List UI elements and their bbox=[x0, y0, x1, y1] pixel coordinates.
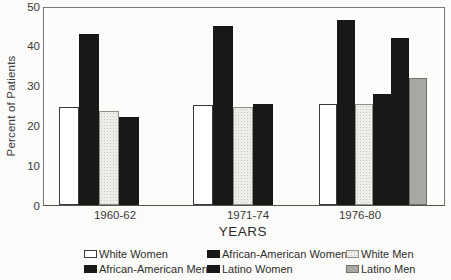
legend-label-african-american-women: African-American Women bbox=[222, 248, 347, 260]
bar-white-men-1960-62 bbox=[99, 111, 119, 205]
y-tick-label-50: 50 bbox=[13, 1, 40, 14]
x-category-label-1960-62: 1960-62 bbox=[94, 209, 136, 221]
legend-label-african-american-men: African-American Men bbox=[99, 263, 208, 275]
y-axis-title: Percent of Patients bbox=[5, 56, 17, 157]
legend-item-african-american-men: African-American Men bbox=[84, 261, 207, 276]
bar-white-women-1976-80 bbox=[319, 104, 337, 205]
legend-swatch-white-men bbox=[346, 250, 359, 258]
bar-african-american-women-1960-62 bbox=[79, 34, 99, 205]
bar-white-men-1971-74 bbox=[233, 107, 253, 205]
x-category-label-1976-80: 1976-80 bbox=[339, 209, 381, 221]
legend-item-white-women: White Women bbox=[84, 246, 207, 261]
legend-swatch-latino-women bbox=[207, 265, 220, 273]
y-tick-label-40: 40 bbox=[13, 40, 40, 53]
legend-swatch-african-american-men bbox=[84, 265, 97, 273]
x-category-label-1971-74: 1971-74 bbox=[227, 209, 269, 221]
bar-latino-women-1976-80 bbox=[391, 38, 409, 205]
x-axis-title: YEARS bbox=[219, 224, 267, 239]
bar-african-american-women-1976-80 bbox=[337, 20, 355, 205]
legend-label-white-women: White Women bbox=[99, 248, 168, 260]
bar-white-women-1960-62 bbox=[59, 107, 79, 205]
legend-item-latino-women: Latino Women bbox=[207, 261, 346, 276]
legend-swatch-african-american-women bbox=[207, 250, 220, 258]
bar-white-men-1976-80 bbox=[355, 104, 373, 205]
y-tick-label-20: 20 bbox=[13, 120, 40, 133]
bar-african-american-women-1971-74 bbox=[213, 26, 233, 205]
legend-label-white-men: White Men bbox=[361, 248, 414, 260]
legend-label-latino-women: Latino Women bbox=[222, 263, 293, 275]
legend: White WomenAfrican-American WomenWhite M… bbox=[84, 246, 451, 276]
y-tick-label-0: 0 bbox=[13, 200, 40, 213]
bar-latino-men-1976-80 bbox=[409, 78, 427, 205]
legend-label-latino-men: Latino Men bbox=[361, 263, 415, 275]
legend-item-african-american-women: African-American Women bbox=[207, 246, 346, 261]
legend-swatch-latino-men bbox=[346, 265, 359, 273]
legend-item-latino-men: Latino Men bbox=[346, 261, 451, 276]
bar-african-american-men-1960-62 bbox=[119, 117, 139, 205]
bar-african-american-men-1971-74 bbox=[253, 104, 273, 205]
bar-african-american-men-1976-80 bbox=[373, 94, 391, 205]
y-tick-label-10: 10 bbox=[13, 160, 40, 173]
y-tick-label-30: 30 bbox=[13, 80, 40, 93]
legend-item-white-men: White Men bbox=[346, 246, 451, 261]
legend-swatch-white-women bbox=[84, 250, 97, 258]
bar-white-women-1971-74 bbox=[193, 105, 213, 205]
figure-canvas: Percent of Patients 01020304050 1960-621… bbox=[0, 0, 451, 280]
plot-area bbox=[43, 7, 445, 206]
